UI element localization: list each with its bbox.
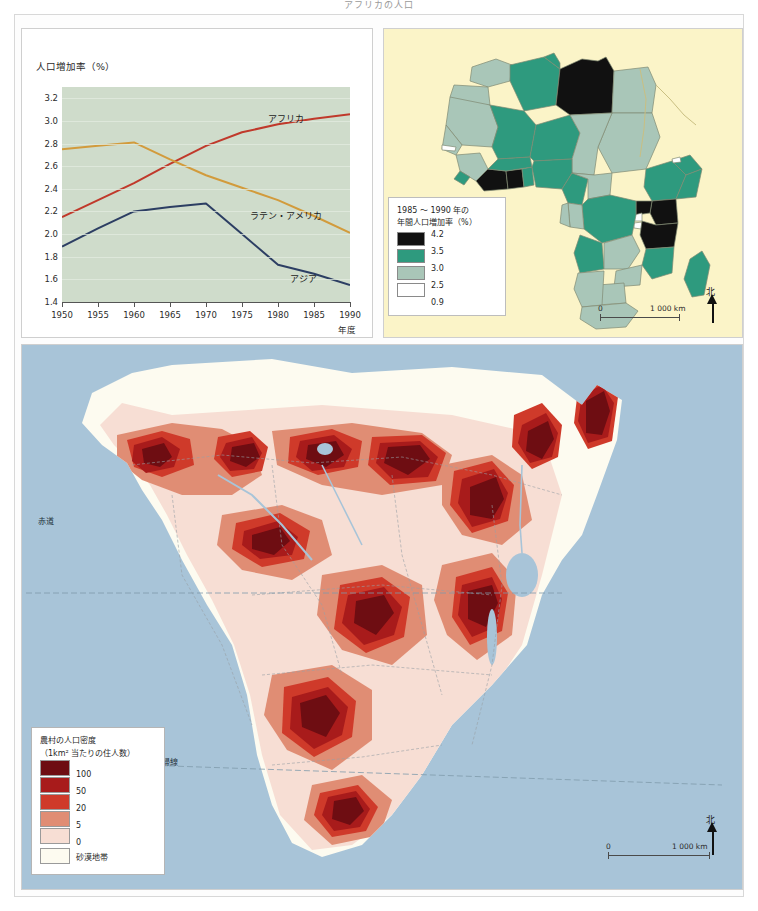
- density-legend-swatch: [40, 811, 70, 827]
- chart-y-axis-title: 人口増加率（%）: [36, 59, 115, 73]
- density-scalebar-end: 1 000 km: [672, 842, 708, 851]
- density-legend-row: 100: [40, 760, 160, 776]
- chart-x-tick-mark: [170, 302, 171, 307]
- africa-legend-title-line2: 年間人口増加率（%）: [397, 218, 477, 227]
- density-legend-desert-label: 砂漠地帯: [76, 851, 108, 862]
- chart-x-tick-mark: [350, 302, 351, 307]
- series-label-africa: アフリカ: [268, 112, 304, 125]
- chart-x-tick-mark: [278, 302, 279, 307]
- density-legend-desert-swatch: [40, 848, 70, 864]
- chart-x-tick: 1980: [267, 310, 289, 320]
- africa-legend-title-line1: 1985 ～ 1990 年の: [397, 206, 469, 215]
- rural-density-map-panel: 赤道 南回帰線 農村の人口密度 （1km² 当たりの住人数） 100502050…: [21, 344, 743, 890]
- chart-x-tick-mark: [242, 302, 243, 307]
- chart-x-tick-mark: [62, 302, 63, 307]
- chart-x-tick: 1990: [339, 310, 361, 320]
- chart-y-tick: 2.0: [36, 229, 58, 239]
- africa-scalebar-start: 0: [598, 304, 603, 313]
- chart-gridline: [62, 166, 350, 167]
- line-chart-panel: 人口増加率（%） 3.23.02.82.62.42.22.01.81.61.4 …: [21, 28, 373, 338]
- density-legend-row: 0: [40, 828, 160, 844]
- chart-y-tick: 1.4: [36, 297, 58, 307]
- density-legend-value: 0: [76, 838, 81, 847]
- density-legend-swatch: [40, 828, 70, 844]
- africa-legend-value: 3.5: [431, 247, 444, 256]
- chart-y-tick: 3.2: [36, 93, 58, 103]
- africa-legend-swatch: [397, 283, 425, 297]
- density-legend-title: 農村の人口密度 （1km² 当たりの住人数）: [40, 735, 135, 760]
- africa-legend-value: 2.5: [431, 281, 444, 290]
- chart-gridline: [62, 257, 350, 258]
- density-legend-title-line2: （1km² 当たりの住人数）: [40, 749, 135, 758]
- density-legend-swatch: [40, 794, 70, 810]
- chart-y-tick: 2.6: [36, 161, 58, 171]
- chart-x-tick: 1960: [123, 310, 145, 320]
- density-legend-row: 50: [40, 777, 160, 793]
- africa-scalebar-end: 1 000 km: [650, 304, 686, 313]
- chart-y-tick: 3.0: [36, 116, 58, 126]
- africa-legend-row: 3.0: [397, 266, 501, 280]
- chart-x-tick-mark: [314, 302, 315, 307]
- chart-y-tick: 2.4: [36, 184, 58, 194]
- series-label-asia: アジア: [290, 272, 317, 285]
- chart-gridline: [62, 189, 350, 190]
- africa-legend: 1985 ～ 1990 年の 年間人口増加率（%） 4.23.53.02.50.…: [388, 197, 506, 316]
- chart-x-tick: 1965: [159, 310, 181, 320]
- africa-legend-value: 0.9: [431, 298, 444, 307]
- chart-x-tick: 1955: [87, 310, 109, 320]
- africa-legend-swatch: [397, 232, 425, 246]
- africa-legend-row: 0.9: [397, 300, 501, 314]
- chart-x-tick-mark: [98, 302, 99, 307]
- density-legend-swatch: [40, 760, 70, 776]
- chart-x-tick-mark: [134, 302, 135, 307]
- chart-x-tick: 1985: [303, 310, 325, 320]
- chart-x-tick-mark: [206, 302, 207, 307]
- density-legend-desert-row: 砂漠地帯: [40, 848, 160, 864]
- density-legend-row: 20: [40, 794, 160, 810]
- density-scalebar-start: 0: [606, 842, 611, 851]
- africa-legend-title: 1985 ～ 1990 年の 年間人口増加率（%）: [397, 205, 477, 229]
- chart-y-tick: 1.8: [36, 252, 58, 262]
- chart-y-tick: 2.8: [36, 139, 58, 149]
- chart-x-axis-title: 年度: [338, 323, 356, 335]
- chart-gridline: [62, 98, 350, 99]
- chart-lines: [62, 87, 350, 302]
- africa-legend-value: 3.0: [431, 264, 444, 273]
- africa-legend-value: 4.2: [431, 230, 444, 239]
- africa-legend-row: 2.5: [397, 283, 501, 297]
- page-title: アフリカの人口: [0, 0, 758, 11]
- density-legend: 農村の人口密度 （1km² 当たりの住人数） 100502050 砂漠地帯: [31, 727, 165, 875]
- density-legend-title-line1: 農村の人口密度: [40, 736, 96, 745]
- equator-label: 赤道: [38, 515, 54, 526]
- chart-y-tick-labels: 3.23.02.82.62.42.22.01.81.61.4: [34, 87, 58, 302]
- chart-gridline: [62, 121, 350, 122]
- africa-legend-row: 3.5: [397, 249, 501, 263]
- chart-gridline: [62, 234, 350, 235]
- africa-legend-swatch: [397, 249, 425, 263]
- chart-x-tick: 1950: [51, 310, 73, 320]
- chart-y-tick: 2.2: [36, 206, 58, 216]
- africa-legend-row: 4.2: [397, 232, 501, 246]
- series-label-latin-america: ラテン・アメリカ: [250, 209, 322, 222]
- africa-growth-map-panel: 1985 ～ 1990 年の 年間人口増加率（%） 4.23.53.02.50.…: [383, 28, 743, 338]
- chart-plot-area: [62, 87, 350, 302]
- density-legend-swatch: [40, 777, 70, 793]
- density-legend-row: 5: [40, 811, 160, 827]
- chart-x-tick: 1970: [195, 310, 217, 320]
- chart-y-tick: 1.6: [36, 274, 58, 284]
- africa-legend-swatch: [397, 266, 425, 280]
- chart-gridline: [62, 144, 350, 145]
- chart-x-tick: 1975: [231, 310, 253, 320]
